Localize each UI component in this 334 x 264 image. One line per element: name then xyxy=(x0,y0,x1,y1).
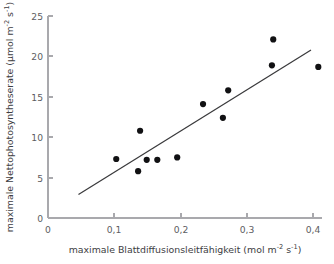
data-point xyxy=(174,154,180,160)
data-point xyxy=(270,36,276,42)
y-axis-title-main: maximale Nettophotosyntheserate (μmol m xyxy=(4,26,15,232)
regression-line xyxy=(78,50,311,195)
svg-text:maximale Nettophotosyntheserat: maximale Nettophotosyntheserate (μmol m-… xyxy=(3,2,15,233)
y-tick-label-10: 10 xyxy=(31,132,43,143)
y-tick-label-0: 0 xyxy=(37,213,43,224)
data-point xyxy=(137,128,143,134)
x-axis-tick-labels: 0 0,1 0,2 0,3 0,4 xyxy=(45,224,320,235)
plot-canvas: 25 20 15 10 5 0 0 0,1 0,2 0,3 0,4 xyxy=(0,0,334,264)
data-point xyxy=(220,115,226,121)
x-tick-label-0-4: 0,4 xyxy=(306,224,321,235)
x-tick-label-0-1: 0,1 xyxy=(107,224,122,235)
x-axis: 0 0,1 0,2 0,3 0,4 xyxy=(45,213,322,235)
y-tick-label-5: 5 xyxy=(37,173,43,184)
data-point xyxy=(315,64,321,70)
y-tick-label-15: 15 xyxy=(31,92,43,103)
data-point xyxy=(113,156,119,162)
y-axis-tick-labels: 25 20 15 10 5 0 xyxy=(31,11,43,224)
x-tick-label-0: 0 xyxy=(45,224,51,235)
y-axis-title-mid: s xyxy=(4,12,15,20)
regression-line-group xyxy=(78,50,311,195)
data-point xyxy=(225,87,231,93)
x-axis-ticks xyxy=(114,213,313,218)
x-axis-title-main: maximale Blattdiffusionsleitfähigkeit (m… xyxy=(69,244,277,255)
y-tick-label-20: 20 xyxy=(31,51,43,62)
y-axis-ticks xyxy=(48,16,53,178)
scatter-plot-figure: 25 20 15 10 5 0 0 0,1 0,2 0,3 0,4 xyxy=(0,0,334,264)
data-point xyxy=(135,168,141,174)
data-point xyxy=(144,157,150,163)
x-tick-label-0-2: 0,2 xyxy=(174,224,189,235)
x-axis-title: maximale Blattdiffusionsleitfähigkeit (m… xyxy=(69,243,302,255)
data-point xyxy=(200,101,206,107)
y-axis-title-tail: ) xyxy=(4,2,15,6)
y-tick-label-25: 25 xyxy=(31,11,43,22)
svg-text:maximale Blattdiffusionsleitfä: maximale Blattdiffusionsleitfähigkeit (m… xyxy=(69,243,302,255)
data-point xyxy=(154,157,160,163)
data-point xyxy=(269,62,275,68)
x-tick-label-0-3: 0,3 xyxy=(240,224,255,235)
y-axis-title: maximale Nettophotosyntheserate (μmol m-… xyxy=(3,2,15,233)
y-axis: 25 20 15 10 5 0 xyxy=(31,11,53,224)
x-axis-title-tail: ) xyxy=(298,244,302,255)
x-axis-title-mid: s xyxy=(283,244,291,255)
